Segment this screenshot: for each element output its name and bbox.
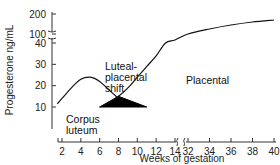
y-tick-label: 10	[35, 102, 47, 113]
y-tick-label: 200	[29, 9, 46, 20]
x-axis-break-icon	[177, 138, 185, 146]
y-tick-label: 100	[29, 29, 46, 40]
progesterone-chart: 1020304010020024681012143234363840 Corpu…	[0, 0, 280, 165]
x-tick-label: 36	[225, 146, 237, 157]
annotation-label: shift	[105, 82, 124, 94]
x-axis-title: Weeks of gestation	[140, 153, 225, 164]
marks	[57, 20, 274, 107]
y-tick-label: 20	[35, 80, 47, 91]
x-tick-label: 6	[97, 146, 103, 157]
y-axis-title: Progesterone ng/mL	[4, 24, 15, 115]
y-axis-break-icon	[48, 31, 56, 39]
y-tick-label: 30	[35, 59, 47, 70]
x-tick-label: 4	[78, 146, 84, 157]
x-tick-label: 8	[116, 146, 122, 157]
x-tick-label: 2	[59, 146, 65, 157]
annotation-label: Placental	[186, 74, 229, 86]
x-tick-label: 40	[268, 146, 280, 157]
annotation-label: luteum	[66, 124, 98, 136]
labels: CorpusluteumLuteal-placentalshiftPlacent…	[66, 60, 229, 136]
luteal-placental-shift-area	[100, 96, 147, 107]
x-tick-label: 38	[247, 146, 259, 157]
